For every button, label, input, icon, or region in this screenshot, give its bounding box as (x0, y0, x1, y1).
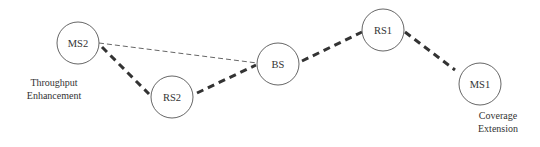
node-ms1: MS1 (459, 63, 501, 105)
node-ms1-label: MS1 (470, 79, 490, 90)
link-ms2-bs-direct (99, 43, 257, 63)
caption-line: Extension (473, 122, 523, 135)
throughput-enhancement-caption: Throughput Enhancement (22, 76, 86, 102)
link-rs2-bs (197, 65, 256, 93)
coverage-extension-caption: Coverage Extension (473, 109, 523, 135)
node-rs2: RS2 (151, 76, 193, 118)
caption-line: Coverage (473, 109, 523, 122)
node-bs-label: BS (272, 59, 285, 70)
relay-network-diagram: MS2 RS2 BS RS1 MS1 (0, 0, 540, 147)
link-bs-rs1 (302, 32, 362, 61)
node-rs1-label: RS1 (374, 25, 392, 36)
caption-line: Throughput (22, 76, 86, 89)
node-rs1: RS1 (362, 9, 404, 51)
node-rs2-label: RS2 (163, 92, 181, 103)
link-rs1-ms1 (405, 32, 455, 70)
caption-line: Enhancement (22, 89, 86, 102)
node-ms2: MS2 (57, 22, 99, 64)
link-ms2-rs2 (102, 47, 149, 94)
node-ms2-label: MS2 (68, 38, 88, 49)
node-bs: BS (257, 43, 299, 85)
